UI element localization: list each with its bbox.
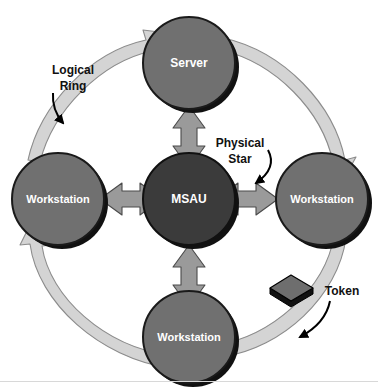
node-server-label: Server — [170, 56, 208, 70]
annotation-physical-star-line2: Star — [228, 152, 252, 166]
annotation-logical-ring-line2: Ring — [60, 79, 87, 93]
annotation-physical-star-line1: Physical — [216, 136, 265, 150]
token-ring-topology-diagram: Server Workstation Workstation Workstati… — [0, 0, 378, 392]
annotation-logical-ring-line1: Logical — [52, 63, 94, 77]
node-msau-label: MSAU — [171, 192, 206, 206]
node-workstation-right-label: Workstation — [290, 193, 354, 205]
node-workstation-bottom-label: Workstation — [157, 331, 221, 343]
bottom-rule — [0, 381, 378, 382]
node-workstation-left-label: Workstation — [26, 193, 90, 205]
diagram-canvas: Server Workstation Workstation Workstati… — [0, 0, 378, 392]
annotation-token-label: Token — [325, 284, 359, 298]
